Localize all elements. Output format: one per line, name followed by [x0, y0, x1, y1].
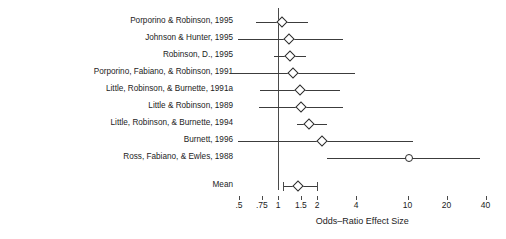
effect-size-marker	[287, 67, 298, 78]
effect-size-marker	[283, 33, 294, 44]
x-axis-title: Odds–Ratio Effect Size	[316, 216, 409, 226]
plot-area: .5.7511.524102040Odds–Ratio Effect Size	[0, 0, 506, 239]
mean-effect-size-marker	[292, 180, 303, 191]
axis-tick-label: .5	[235, 200, 242, 210]
axis-tick-label: 40	[481, 200, 490, 210]
forest-plot-figure: Porporino & Robinson, 1995Johnson & Hunt…	[0, 0, 506, 239]
effect-size-marker	[295, 101, 306, 112]
mean-ci-cap	[317, 182, 318, 191]
axis-tick-label: 2	[315, 200, 320, 210]
reference-line	[278, 8, 279, 190]
effect-size-marker	[405, 154, 413, 162]
confidence-interval-line	[327, 158, 479, 159]
effect-size-marker	[303, 118, 314, 129]
axis-tick-label: 1	[276, 200, 281, 210]
axis-tick-label: 10	[403, 200, 412, 210]
mean-ci-cap	[283, 182, 284, 191]
axis-tick-label: 1.5	[295, 200, 307, 210]
axis-tick-label: .75	[256, 200, 268, 210]
effect-size-marker	[294, 84, 305, 95]
axis-tick-label: 4	[354, 200, 359, 210]
effect-size-marker	[317, 135, 328, 146]
effect-size-marker	[284, 50, 295, 61]
axis-tick-label: 20	[442, 200, 451, 210]
